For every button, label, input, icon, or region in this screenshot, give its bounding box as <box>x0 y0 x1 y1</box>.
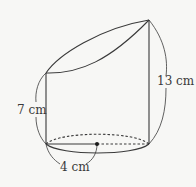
height-13-brace <box>149 20 167 76</box>
label-4cm: 4 cm <box>60 160 90 174</box>
center-point <box>95 142 99 146</box>
height-7-brace <box>36 73 46 102</box>
top-ellipse-back-arc <box>46 20 149 73</box>
top-ellipse-front-arc <box>46 20 149 73</box>
label-13cm: 13 cm <box>157 74 195 88</box>
diagram-canvas: 13 cm 7 cm 4 cm <box>0 0 196 187</box>
height-7-brace-lower <box>36 117 46 144</box>
label-7cm: 7 cm <box>17 103 47 117</box>
height-13-brace-lower <box>149 88 166 144</box>
radius-brace-left <box>46 144 60 164</box>
truncated-cylinder-diagram: 13 cm 7 cm 4 cm <box>0 0 196 187</box>
